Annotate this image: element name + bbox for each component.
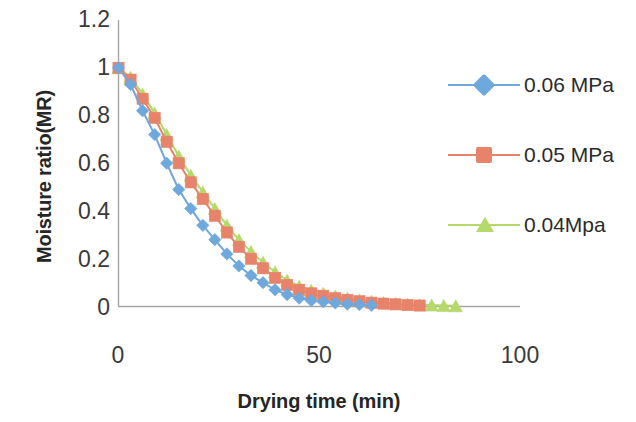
legend-item-2: 0.04Mpa: [448, 208, 606, 242]
series-2: [112, 62, 462, 312]
legend-label: 0.06 MPa: [524, 73, 614, 97]
legend-item-0: 0.06 MPa: [448, 68, 614, 102]
legend-sample-2: [448, 213, 520, 237]
legend-sample-0: [448, 73, 520, 97]
legend-label: 0.05 MPa: [524, 143, 614, 167]
data-series-layer: [112, 62, 462, 312]
triangle-marker-icon: [476, 217, 494, 232]
square-marker-icon: [476, 147, 492, 163]
chart-container: 1.2 1 0.8 0.6 0.4 0.2 0 0 50 100 Moistur…: [0, 0, 636, 422]
series-0: [112, 62, 377, 312]
diamond-marker-icon: [473, 74, 496, 97]
chart-legend: 0.06 MPa 0.05 MPa 0.04Mpa: [448, 58, 636, 248]
legend-label: 0.04Mpa: [524, 213, 606, 237]
legend-sample-1: [448, 143, 520, 167]
legend-item-1: 0.05 MPa: [448, 138, 614, 172]
series-1: [113, 62, 425, 311]
